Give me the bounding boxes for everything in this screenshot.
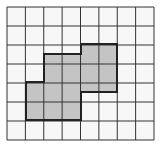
grid-diagram	[0, 0, 161, 147]
